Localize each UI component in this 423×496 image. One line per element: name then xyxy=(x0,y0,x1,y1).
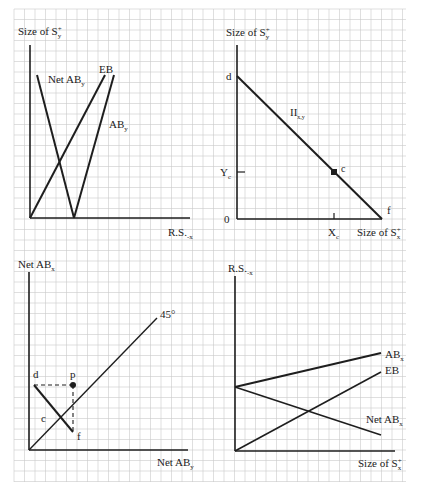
x-axis-label: Size of S+x xyxy=(357,226,401,241)
point-p-marker xyxy=(70,382,76,388)
point-d-label: d xyxy=(226,70,232,82)
point-p-label: p xyxy=(70,368,76,380)
origin-label: 0 xyxy=(224,213,230,225)
point-c-label: c xyxy=(341,163,346,174)
panel-bottom-left-labels: Net ABx 45° d p c f Net ABy xyxy=(18,258,194,471)
y-c-label: Yc xyxy=(220,166,231,181)
y-axis-label: Net ABx xyxy=(18,258,55,273)
ab-y-label: ABy xyxy=(109,118,128,133)
eb-label: EB xyxy=(99,63,113,75)
x-axis-label: Net ABy xyxy=(157,456,194,471)
net-ab-x-label: Net ABx xyxy=(366,413,403,428)
y-axis-label: Size of S+y xyxy=(226,26,270,41)
eb-label: EB xyxy=(385,364,399,376)
point-d-label: d xyxy=(33,368,39,380)
y-axis-label: R.S.-x xyxy=(228,262,253,277)
diagonal-label: 45° xyxy=(160,308,175,320)
x-axis-label: Size of S+x xyxy=(358,457,402,472)
ab-x-label: ABx xyxy=(385,348,404,363)
diagonal-45-line xyxy=(29,318,157,450)
x-c-label: Xc xyxy=(328,226,339,241)
diagram-canvas: Size of S+y Net ABy EB ABy R.S.-x Size o… xyxy=(0,0,423,496)
point-c-label: c xyxy=(41,412,46,424)
point-f-label: f xyxy=(387,204,391,216)
point-c-marker xyxy=(331,169,337,175)
point-f-label: f xyxy=(77,430,81,442)
